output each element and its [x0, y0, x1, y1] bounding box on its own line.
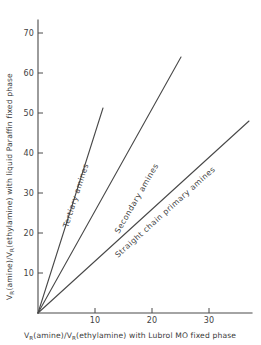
y-tick-label-40: 40 — [23, 149, 34, 158]
scatter-line-plot: 10 20 30 40 50 60 70 10 20 30 Tertiary a — [0, 0, 261, 345]
chart-figure: 10 20 30 40 50 60 70 10 20 30 Tertiary a — [0, 0, 261, 345]
svg-text:VR(amine)/VR(ethylamine) with: VR(amine)/VR(ethylamine) with Lubrol MO … — [24, 331, 236, 341]
y-tick-label-70: 70 — [23, 29, 34, 38]
y-tick-label-20: 20 — [23, 229, 34, 238]
x-tick-label-30: 30 — [204, 316, 215, 325]
x-title-mid: (amine)/ — [33, 331, 67, 340]
x-axis-title: VR(amine)/VR(ethylamine) with Lubrol MO … — [24, 331, 236, 341]
y-title-mid: (amine)/ — [5, 257, 14, 291]
y-tick-label-60: 60 — [23, 69, 34, 78]
y-tick-label-10: 10 — [23, 269, 34, 278]
y-axis-title: VR(amine)/VR(ethylamine) with liquid Par… — [5, 73, 15, 300]
x-title-tail: (ethylamine) with Lubrol MO fixed phase — [76, 331, 236, 340]
plot-background — [0, 0, 261, 345]
x-tick-label-10: 10 — [90, 316, 101, 325]
y-title-tail: (ethylamine) with liquid Paraffin fixed … — [5, 73, 14, 248]
x-tick-label-20: 20 — [147, 316, 158, 325]
svg-text:VR(amine)/VR(ethylamine) with: VR(amine)/VR(ethylamine) with liquid Par… — [5, 73, 15, 300]
y-tick-label-30: 30 — [23, 189, 34, 198]
y-tick-label-50: 50 — [23, 109, 34, 118]
